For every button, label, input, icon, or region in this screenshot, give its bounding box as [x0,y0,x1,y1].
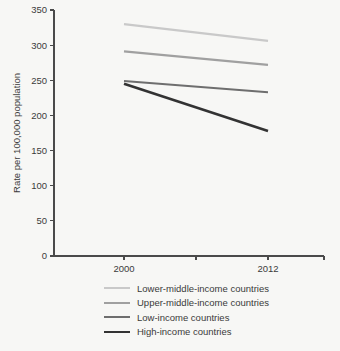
legend-item-lower-middle-income[interactable]: Lower-middle-income countries [104,281,340,296]
y-tick-label: 50 [36,215,47,226]
x-tick-label: 2000 [113,263,134,274]
slope-chart: 050100150200250300350Rate per 100,000 po… [0,0,340,351]
y-tick-label: 250 [31,75,47,86]
series-line-2 [124,51,268,64]
legend-swatch-high-income [104,331,130,333]
y-axis-title: Rate per 100,000 population [11,73,22,193]
legend-item-upper-middle-income[interactable]: Upper-middle-income countries [104,296,340,311]
y-tick-label: 300 [31,40,47,51]
y-tick-label: 150 [31,145,47,156]
legend-swatch-low-income [104,316,130,318]
y-tick-label: 200 [31,110,47,121]
y-tick-label: 350 [31,4,47,15]
legend-item-high-income[interactable]: High-income countries [104,325,340,340]
legend-label-lower-middle-income: Lower-middle-income countries [137,284,269,294]
chart-legend: Lower-middle-income countries Upper-midd… [104,281,340,339]
legend-swatch-upper-middle-income [104,302,130,304]
legend-label-high-income: High-income countries [137,327,232,337]
x-tick-label: 2012 [257,263,278,274]
legend-label-upper-middle-income: Upper-middle-income countries [137,298,269,308]
legend-swatch-lower-middle-income [104,287,130,289]
legend-label-low-income: Low-income countries [137,313,229,323]
y-tick-label: 100 [31,180,47,191]
y-tick-label: 0 [42,250,47,261]
legend-item-low-income[interactable]: Low-income countries [104,310,340,325]
series-line-1 [124,24,268,41]
